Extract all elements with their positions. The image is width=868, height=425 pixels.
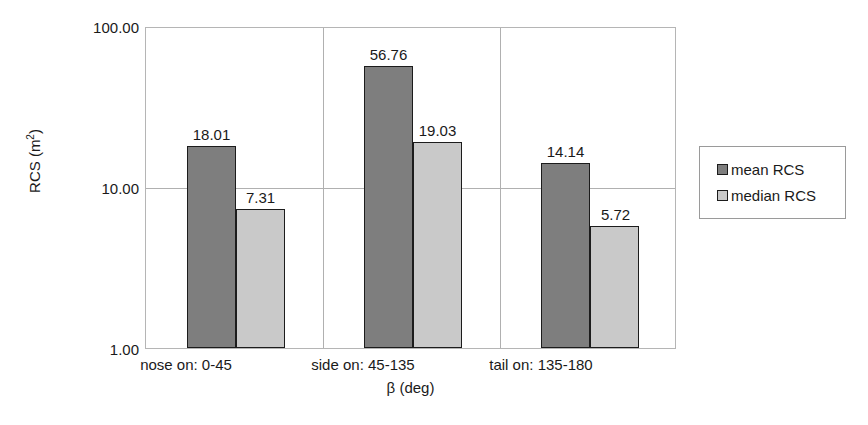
data-label-median-nose-on: 7.31 <box>224 190 297 205</box>
data-label-median-side-on: 19.03 <box>398 123 477 138</box>
rcs-bar-chart: RCS (m2) 100.00 10.00 1.00 18.01 7.31 56… <box>0 0 868 425</box>
bar-mean-tail-on[interactable] <box>541 163 590 348</box>
x-axis-title: β (deg) <box>145 379 676 396</box>
legend-swatch-mean-icon <box>717 164 728 175</box>
data-label-median-tail-on: 5.72 <box>579 207 652 222</box>
y-axis-title-superscript: 2 <box>25 134 36 140</box>
legend-swatch-median-icon <box>717 190 728 201</box>
x-tick-side-on: side on: 45-135 <box>273 357 453 373</box>
y-tick-10: 10.00 <box>53 181 139 196</box>
legend-label-median-rcs: median RCS <box>731 188 816 203</box>
y-tick-100: 100.00 <box>53 20 139 35</box>
bar-mean-nose-on[interactable] <box>187 146 236 348</box>
x-tick-tail-on: tail on: 135-180 <box>451 357 631 373</box>
bar-median-tail-on[interactable] <box>590 226 639 348</box>
y-axis-title: RCS (m2) <box>25 81 43 241</box>
plot-area: 18.01 7.31 56.76 19.03 14.14 5.72 <box>145 27 676 349</box>
data-label-mean-tail-on: 14.14 <box>526 144 605 159</box>
legend-label-mean-rcs: mean RCS <box>731 162 804 177</box>
y-axis-title-base: RCS (m <box>26 140 43 193</box>
y-tick-1: 1.00 <box>53 342 139 357</box>
y-axis-title-tail: ) <box>26 129 43 134</box>
category-separator-1 <box>323 28 324 348</box>
data-label-mean-side-on: 56.76 <box>349 47 428 62</box>
legend-item-mean-rcs[interactable]: mean RCS <box>717 156 845 182</box>
x-tick-nose-on: nose on: 0-45 <box>96 357 276 373</box>
bar-median-nose-on[interactable] <box>236 209 285 348</box>
bar-mean-side-on[interactable] <box>364 66 413 348</box>
legend: mean RCS median RCS <box>699 146 846 219</box>
legend-item-median-rcs[interactable]: median RCS <box>717 182 845 208</box>
category-separator-2 <box>500 28 501 348</box>
data-label-mean-nose-on: 18.01 <box>172 127 251 142</box>
bar-median-side-on[interactable] <box>413 142 462 348</box>
